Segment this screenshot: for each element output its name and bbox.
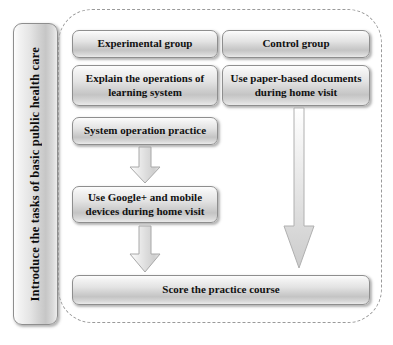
arrow-paper-to-score-icon [282, 108, 316, 270]
node-explain-operations-line2: learning system [86, 86, 204, 100]
node-system-operation-practice-label: System operation practice [84, 124, 206, 138]
diagram-canvas: Introduce the tasks of basic public heal… [0, 0, 393, 345]
node-use-paper-documents-line1: Use paper-based documents [231, 72, 362, 86]
node-use-google-mobile-line1: Use Google+ and mobile [86, 191, 205, 205]
node-use-paper-documents-line2: during home visit [231, 86, 362, 100]
arrow-google-to-score-icon [128, 226, 162, 273]
node-control-group[interactable]: Control group [222, 30, 370, 58]
node-explain-operations-line1: Explain the operations of [86, 72, 204, 86]
node-use-google-mobile[interactable]: Use Google+ and mobile devices during ho… [72, 186, 218, 223]
node-system-operation-practice[interactable]: System operation practice [72, 117, 218, 145]
node-experimental-group-label: Experimental group [98, 37, 193, 51]
node-explain-operations[interactable]: Explain the operations of learning syste… [72, 65, 218, 106]
node-explain-operations-label: Explain the operations of learning syste… [86, 72, 204, 99]
node-experimental-group[interactable]: Experimental group [72, 30, 218, 58]
vertical-title-banner: Introduce the tasks of basic public heal… [13, 23, 58, 325]
node-use-google-mobile-label: Use Google+ and mobile devices during ho… [86, 191, 205, 218]
node-use-paper-documents[interactable]: Use paper-based documents during home vi… [222, 65, 370, 106]
vertical-title-label: Introduce the tasks of basic public heal… [28, 47, 43, 301]
node-use-paper-documents-label: Use paper-based documents during home vi… [231, 72, 362, 99]
node-score-practice-course-label: Score the practice course [162, 283, 279, 297]
node-control-group-label: Control group [262, 37, 329, 51]
arrow-system-practice-to-google-icon [128, 147, 162, 184]
node-score-practice-course[interactable]: Score the practice course [72, 275, 370, 305]
node-use-google-mobile-line2: devices during home visit [86, 205, 205, 219]
